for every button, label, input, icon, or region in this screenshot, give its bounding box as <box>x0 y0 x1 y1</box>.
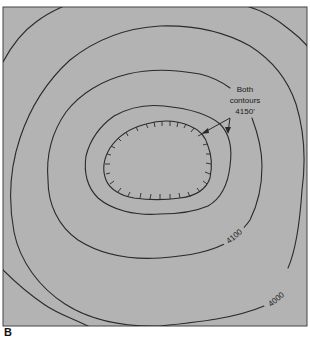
annotation-line-3: 4150' <box>235 107 255 116</box>
annotation-line-1: Both <box>237 85 253 94</box>
contour-map: Both contours 4150' 4100 4000 <box>0 0 310 338</box>
panel-label: B <box>4 326 12 338</box>
annotation-line-2: contours <box>230 96 261 105</box>
